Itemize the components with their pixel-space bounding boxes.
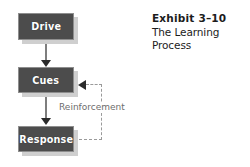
exhibit-caption-title: The Learning Process bbox=[152, 26, 219, 52]
flow-node-drive: Drive bbox=[18, 13, 74, 40]
exhibit-caption-number: Exhibit 3–10 bbox=[152, 12, 226, 24]
exhibit-caption: Exhibit 3–10 The Learning Process bbox=[152, 12, 248, 53]
flow-node-drive-label: Drive bbox=[31, 21, 61, 32]
exhibit-caption-spacer bbox=[226, 12, 229, 24]
flow-node-response: Response bbox=[18, 126, 74, 152]
arrow-down-icon-to-response bbox=[41, 118, 51, 125]
flow-node-cues-label: Cues bbox=[32, 75, 59, 86]
connector-cues-to-response bbox=[45, 93, 47, 119]
flow-node-cues: Cues bbox=[18, 67, 74, 93]
arrow-left-icon-feedback bbox=[78, 80, 86, 90]
reinforcement-label: Reinforcement bbox=[57, 102, 127, 113]
connector-drive-to-cues bbox=[45, 40, 47, 62]
arrow-down-icon-to-cues bbox=[41, 60, 51, 67]
exhibit-figure: Drive Cues Response Reinforcement Exhibi… bbox=[0, 0, 250, 167]
feedback-segment-bottom bbox=[74, 139, 102, 140]
flow-node-response-label: Response bbox=[19, 134, 73, 145]
feedback-segment-top bbox=[86, 84, 102, 85]
